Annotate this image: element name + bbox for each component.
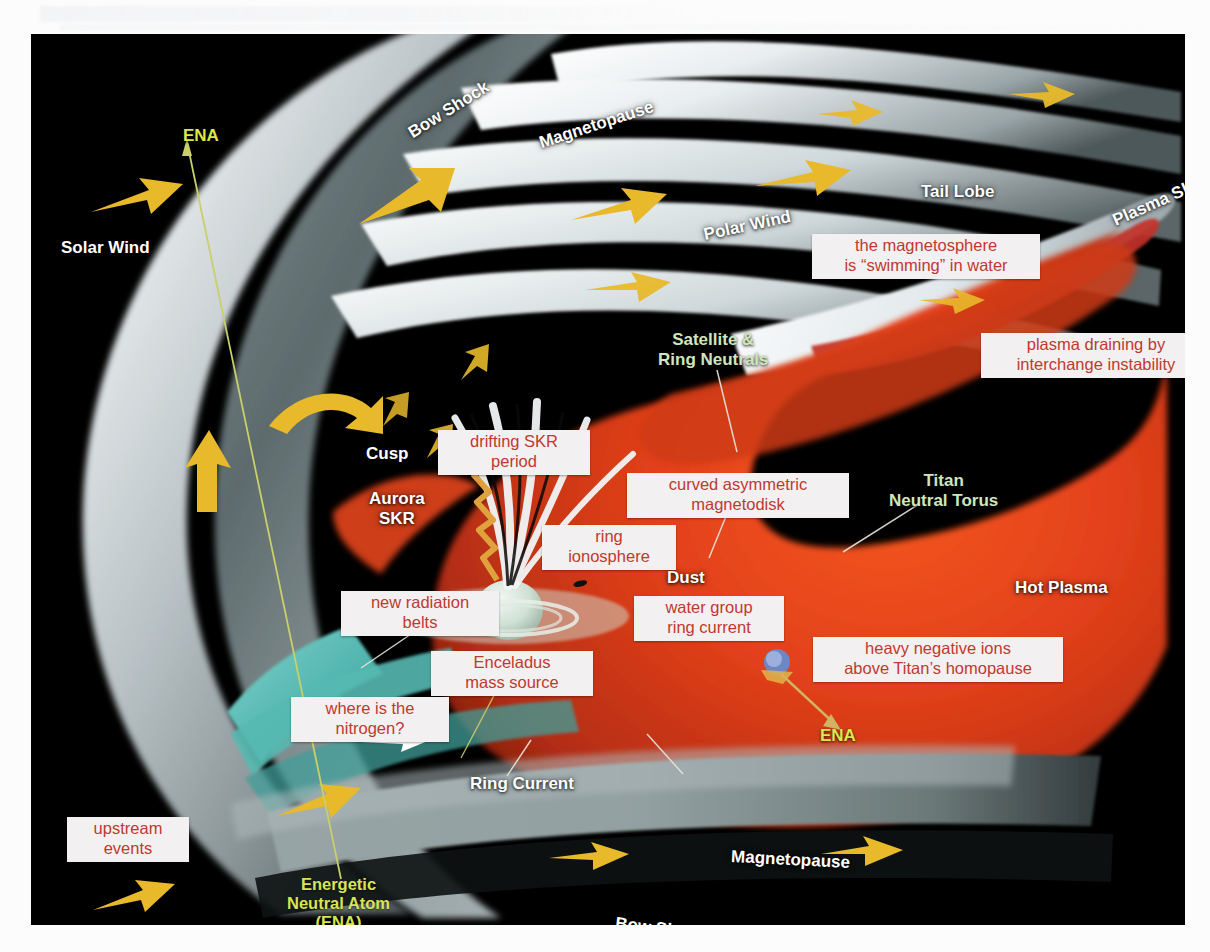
magnetosphere-artwork: [31, 34, 1185, 925]
label-ena-top: ENA: [183, 126, 219, 146]
callout-where-is-nitrogen: where is the nitrogen?: [291, 697, 449, 742]
callout-new-radiation-belts: new radiation belts: [341, 591, 499, 636]
callout-swimming-in-water: the magnetosphere is “swimming” in water: [812, 234, 1040, 279]
label-ena-legend: Energetic Neutral Atom (ENA): [287, 875, 390, 925]
callout-ring-ionosphere: ring ionosphere: [542, 525, 676, 570]
callout-curved-magnetodisk: curved asymmetric magnetodisk: [627, 473, 849, 518]
label-satellite-ring-neutrals: Satellite & Ring Neutrals: [658, 330, 769, 369]
label-aurora-skr: Aurora SKR: [369, 489, 425, 528]
callout-plasma-draining: plasma draining by interchange instabili…: [981, 333, 1185, 378]
callout-enceladus-mass-source: Enceladus mass source: [431, 651, 593, 696]
label-dust: Dust: [667, 568, 705, 588]
callout-water-group-ring-current: water group ring current: [634, 596, 784, 641]
callout-drifting-skr: drifting SKR period: [438, 430, 590, 475]
label-titan-neutral-torus: Titan Neutral Torus: [889, 471, 998, 510]
label-ring-current: Ring Current: [470, 774, 574, 794]
figure-page: Solar Wind Bow Shock Magnetopause Tail L…: [0, 0, 1210, 952]
label-tail-lobe: Tail Lobe: [921, 182, 994, 202]
label-hot-plasma: Hot Plasma: [1015, 578, 1108, 598]
callout-upstream-events: upstream events: [67, 817, 189, 862]
callout-heavy-negative-ions: heavy negative ions above Titan’s homopa…: [813, 637, 1063, 682]
scan-artifact-line-2: [60, 24, 1150, 31]
label-ena-titan: ENA: [820, 726, 856, 746]
label-cusp: Cusp: [366, 444, 409, 464]
magnetosphere-figure-plate: Solar Wind Bow Shock Magnetopause Tail L…: [31, 34, 1185, 925]
scan-artifact-line-1: [40, 6, 700, 22]
label-solar-wind: Solar Wind: [61, 238, 150, 258]
